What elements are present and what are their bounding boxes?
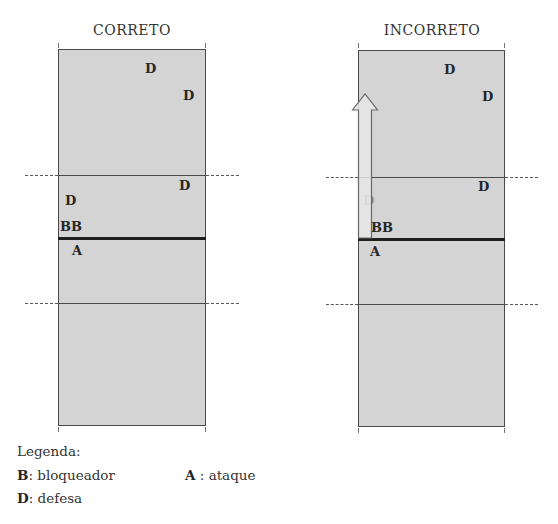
legend-key: D [17,490,29,506]
attack-line-upper-dash-right [505,177,538,178]
legend-key: B [17,467,28,483]
volleyball-positioning-diagram: CORRETO D D D D BB A INCORRETO [0,0,558,524]
court-tick-bottom-right [205,427,206,432]
legend-item-defense: D: defesa [17,490,82,506]
court-tick-top-left [58,43,59,48]
court-tick-top-right [504,43,505,48]
attack-line-upper [358,177,505,178]
attack-line-lower-dash-left [326,304,358,305]
legend-label: defesa [38,490,83,506]
court-tick-bottom-left [58,427,59,432]
player-defense: D [179,179,190,193]
player-blockers: BB [371,221,393,235]
player-defense: D [183,89,194,103]
player-defense: D [145,62,156,76]
court-tick-bottom-left [358,428,359,433]
legend-separator: : [29,490,38,506]
legend-key: A [185,467,195,483]
net-line [358,238,505,241]
legend: Legenda: B: bloqueador A : ataque D: def… [17,440,115,511]
player-defense: D [65,194,76,208]
legend-row-2: D: defesa [17,487,115,511]
panel-title-incorreto: INCORRETO [358,22,506,38]
player-defense: D [444,63,455,77]
player-attacker: A [370,245,380,259]
player-defense: D [482,90,493,104]
player-defense: D [478,180,489,194]
court-tick-top-right [205,43,206,48]
player-blockers: BB [60,220,82,234]
legend-label: ataque [209,467,256,483]
attack-line-lower [358,304,505,305]
court-tick-top-left [358,43,359,48]
attack-line-lower-dash-right [206,303,239,304]
legend-separator: : [195,467,208,483]
attack-line-lower [58,303,206,304]
attack-line-lower-dash-right [505,304,538,305]
court-tick-bottom-right [504,428,505,433]
legend-row-1: B: bloqueador A : ataque [17,464,115,488]
legend-item-blocker: B: bloqueador [17,467,115,483]
legend-separator: : [28,467,37,483]
attack-line-upper-dash-left [25,175,58,176]
panel-title-correto: CORRETO [58,22,206,38]
attack-line-upper [58,175,206,176]
legend-title: Legenda: [17,440,115,464]
net-line [58,237,206,240]
attack-line-upper-dash-right [206,175,239,176]
legend-item-attack: A : ataque [185,464,255,488]
legend-label: bloqueador [37,467,115,483]
attack-line-lower-dash-left [25,303,58,304]
player-attacker: A [72,244,82,258]
